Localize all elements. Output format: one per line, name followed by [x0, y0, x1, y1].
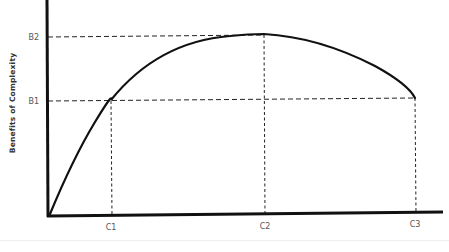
y-tick-b2: B2: [28, 33, 39, 42]
scan-artifact: [0, 240, 449, 241]
c2-vertical-ref: [264, 35, 265, 215]
b1-horizontal-ref: [48, 98, 415, 101]
benefits-curve: [50, 34, 415, 214]
x-tick-c1: C1: [106, 223, 117, 232]
x-tick-c2: C2: [260, 222, 271, 231]
y-axis-label: Benefits of Complexity: [8, 53, 17, 154]
vertical-reference-lines: [111, 35, 416, 216]
c1-vertical-ref: [111, 101, 112, 216]
reference-lines: [48, 35, 415, 101]
y-axis: [47, 0, 48, 217]
c3-vertical-ref: [415, 98, 416, 213]
chart-canvas: [0, 0, 449, 252]
x-axis: [47, 212, 443, 216]
y-tick-b1: B1: [28, 97, 39, 106]
x-tick-c3: C3: [410, 220, 421, 229]
